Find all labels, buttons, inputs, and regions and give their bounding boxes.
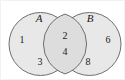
element-a-only-upper: 1	[20, 34, 25, 45]
element-b-only-upper: 6	[106, 34, 111, 45]
element-a-only-lower: 3	[38, 56, 43, 67]
element-intersection-lower: 4	[63, 46, 68, 57]
set-b-label: B	[87, 12, 94, 24]
set-a-label: A	[35, 12, 43, 24]
element-b-only-lower: 8	[86, 56, 91, 67]
venn-diagram-canvas: A B 1 3 2 4 6 8	[1, 1, 125, 80]
element-intersection-upper: 2	[63, 30, 68, 41]
venn-diagram-figure: A B 1 3 2 4 6 8	[0, 0, 125, 80]
